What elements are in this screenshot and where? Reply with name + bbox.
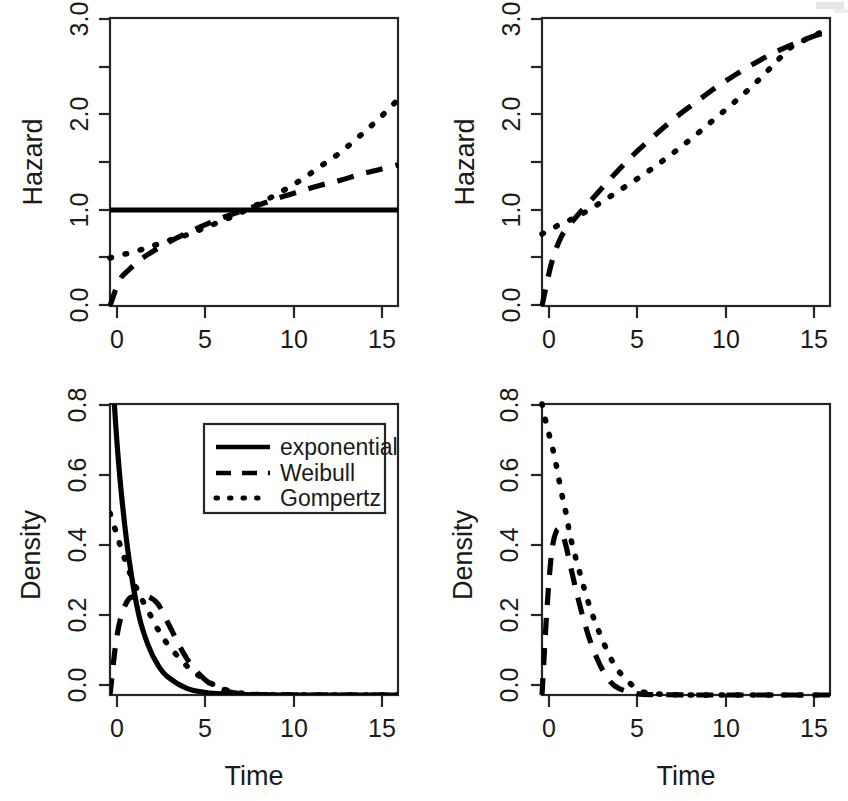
x-tick-label-0: 0	[110, 325, 124, 353]
curve-weibull-bottom-right	[542, 529, 830, 695]
x-tick-label-10: 10	[280, 714, 308, 742]
x-ticks-top-left	[117, 306, 382, 318]
x-tick-labels-top-left: 0 5 10 15	[110, 325, 396, 353]
x-tick-label-10: 10	[712, 714, 740, 742]
x-tick-label-15: 15	[800, 714, 828, 742]
y-tick-label-0: 0.0	[495, 668, 523, 703]
panel-bottom-right-svg: Density 0.0 0.2 0.4 0.6 0.8	[424, 390, 848, 801]
y-tick-label-06: 0.6	[495, 458, 523, 493]
plot-frame-top-right	[542, 18, 830, 306]
y-tick-label-0: 0.0	[65, 288, 93, 323]
x-tick-label-10: 10	[712, 325, 740, 353]
y-tick-label-6: 3.0	[497, 2, 525, 37]
y-tick-label-02: 0.2	[495, 598, 523, 633]
y-tick-labels-bottom-right: 0.0 0.2 0.4 0.6 0.8	[495, 388, 523, 703]
x-ticks-bottom-left	[117, 695, 382, 707]
x-tick-label-0: 0	[542, 714, 556, 742]
y-tick-label-06: 0.6	[63, 458, 91, 493]
y-tick-labels-top-left: 0.0 1.0 2.0 3.0	[65, 2, 93, 323]
y-tick-label-08: 0.8	[495, 388, 523, 423]
x-tick-label-5: 5	[630, 714, 644, 742]
panel-top-left-svg: Hazard 0.0 1.0 2.0 3.0	[0, 0, 424, 390]
curve-gompertz-top-left	[110, 100, 398, 258]
curve-weibull-bottom-left	[110, 596, 398, 695]
survival-distributions-figure: Hazard 0.0 1.0 2.0 3.0	[0, 0, 848, 801]
panel-top-left-hazard: Hazard 0.0 1.0 2.0 3.0	[0, 0, 424, 390]
curve-gompertz-bottom-left	[110, 513, 398, 695]
x-axis-title-bottom-left: Time	[225, 761, 284, 791]
x-ticks-top-right	[549, 306, 814, 318]
curve-gompertz-top-right	[542, 28, 830, 234]
panel-top-right-cumulative-hazard: Hazard 0.0 1.0 2.0 3.0	[424, 0, 848, 390]
y-axis-title-top-left: Hazard	[18, 118, 48, 205]
x-tick-label-5: 5	[630, 325, 644, 353]
x-tick-label-5: 5	[198, 714, 212, 742]
x-tick-labels-bottom-right: 0 5 10 15	[542, 714, 828, 742]
panel-bottom-left-svg: Density 0.0 0.2 0.4 0.6 0.8	[0, 390, 424, 801]
y-tick-label-4: 2.0	[497, 97, 525, 132]
curve-weibull-top-right	[542, 31, 830, 306]
legend-label-gompertz: Gompertz	[280, 485, 381, 511]
y-ticks-bottom-right	[531, 405, 542, 685]
x-tick-label-15: 15	[368, 714, 396, 742]
y-tick-label-02: 0.2	[63, 598, 91, 633]
curves-top-left	[110, 100, 398, 306]
y-ticks-top-left	[99, 19, 110, 305]
y-tick-label-2: 1.0	[65, 193, 93, 228]
y-tick-label-08: 0.8	[63, 388, 91, 423]
panel-top-right-svg: Hazard 0.0 1.0 2.0 3.0	[424, 0, 848, 390]
x-tick-label-0: 0	[110, 714, 124, 742]
y-ticks-bottom-left	[99, 405, 110, 685]
x-tick-label-5: 5	[198, 325, 212, 353]
axis-title-group-top-left: Hazard	[18, 118, 48, 205]
curves-bottom-right	[542, 404, 830, 695]
panel-bottom-right-density: Density 0.0 0.2 0.4 0.6 0.8	[424, 390, 848, 801]
y-axis-title-bottom-left: Density	[16, 509, 46, 600]
y-tick-label-04: 0.4	[63, 528, 91, 563]
y-ticks-top-right	[531, 19, 542, 305]
plot-frame-top-left	[110, 18, 398, 306]
x-axis-title-bottom-right: Time	[657, 761, 716, 791]
y-tick-labels-bottom-left: 0.0 0.2 0.4 0.6 0.8	[63, 388, 91, 703]
curve-weibull-top-left	[110, 165, 398, 306]
y-tick-label-0: 0.0	[497, 288, 525, 323]
y-tick-label-2: 1.0	[497, 193, 525, 228]
x-tick-label-15: 15	[800, 325, 828, 353]
x-tick-label-15: 15	[368, 325, 396, 353]
y-tick-labels-top-right: 0.0 1.0 2.0 3.0	[497, 2, 525, 323]
curves-top-right	[542, 28, 830, 306]
y-tick-label-6: 3.0	[65, 2, 93, 37]
y-axis-title-top-right: Hazard	[450, 118, 480, 205]
legend-label-weibull: Weibull	[280, 460, 355, 486]
y-axis-title-bottom-right: Density	[448, 509, 478, 600]
curve-gompertz-bottom-right	[542, 404, 830, 695]
panel-bottom-left-density: Density 0.0 0.2 0.4 0.6 0.8	[0, 390, 424, 801]
x-tick-labels-top-right: 0 5 10 15	[542, 325, 828, 353]
y-tick-label-4: 2.0	[65, 97, 93, 132]
y-tick-label-04: 0.4	[495, 528, 523, 563]
y-tick-label-0: 0.0	[63, 668, 91, 703]
x-tick-labels-bottom-left: 0 5 10 15	[110, 714, 396, 742]
plot-frame-bottom-right	[542, 404, 830, 695]
legend: exponential Weibull Gompertz	[204, 424, 398, 513]
legend-label-exponential: exponential	[280, 434, 398, 460]
x-tick-label-10: 10	[280, 325, 308, 353]
x-tick-label-0: 0	[542, 325, 556, 353]
